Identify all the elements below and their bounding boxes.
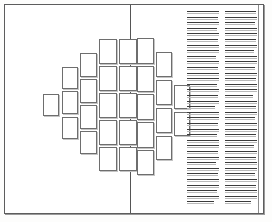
text-rule-line bbox=[225, 39, 256, 40]
text-rule-line bbox=[225, 22, 255, 23]
right-inner-rule bbox=[258, 5, 259, 213]
text-rule-line bbox=[225, 134, 256, 135]
text-rule-line bbox=[187, 78, 219, 79]
photo-placeholder-tile[interactable] bbox=[137, 122, 154, 148]
text-rule-line bbox=[225, 185, 256, 186]
photo-placeholder-tile[interactable] bbox=[80, 79, 97, 103]
text-rule-line bbox=[225, 89, 257, 90]
text-rule-line bbox=[187, 28, 217, 29]
text-rule-line bbox=[225, 11, 256, 12]
photo-placeholder-tile[interactable] bbox=[137, 94, 154, 120]
photo-placeholder-tile[interactable] bbox=[156, 108, 172, 133]
text-rule-line bbox=[187, 168, 219, 169]
text-rule-line bbox=[187, 157, 219, 158]
text-rule-line bbox=[187, 123, 218, 124]
text-rule-line bbox=[187, 11, 219, 12]
photo-placeholder-tile[interactable] bbox=[137, 38, 154, 64]
text-rule-line bbox=[187, 67, 218, 68]
photo-placeholder-tile[interactable] bbox=[119, 120, 137, 145]
text-rule-line bbox=[187, 39, 218, 40]
text-rule-line bbox=[225, 73, 257, 74]
text-rule-line bbox=[225, 162, 257, 163]
text-rule-line bbox=[225, 129, 257, 130]
text-rule-line bbox=[225, 179, 257, 180]
text-rule-line bbox=[187, 50, 219, 51]
text-rule-line bbox=[187, 145, 219, 146]
text-rule-line bbox=[187, 185, 219, 186]
text-rule-line bbox=[225, 145, 254, 146]
text-rule-line bbox=[225, 157, 256, 158]
text-rule-line bbox=[225, 117, 255, 118]
text-rule-line bbox=[225, 173, 255, 174]
text-rule-line bbox=[187, 190, 217, 191]
photo-placeholder-tile[interactable] bbox=[99, 93, 117, 118]
text-rule-line bbox=[225, 33, 257, 34]
photo-placeholder-tile[interactable] bbox=[119, 39, 137, 64]
text-rule-line bbox=[225, 140, 257, 141]
text-rule-line bbox=[187, 95, 218, 96]
text-rule-line bbox=[225, 196, 257, 197]
photo-placeholder-tile[interactable] bbox=[80, 105, 97, 129]
text-rule-line bbox=[187, 179, 219, 180]
page-canvas bbox=[0, 0, 272, 222]
text-rule-line bbox=[225, 78, 256, 79]
text-rule-line bbox=[225, 61, 257, 62]
text-rule-line bbox=[187, 162, 216, 163]
photo-placeholder-tile[interactable] bbox=[80, 53, 97, 77]
text-rule-line bbox=[225, 28, 257, 29]
text-rule-line bbox=[225, 67, 255, 68]
photo-placeholder-tile[interactable] bbox=[62, 67, 78, 89]
photo-placeholder-tile[interactable] bbox=[99, 66, 117, 91]
text-rule-line bbox=[225, 123, 257, 124]
text-rule-line bbox=[225, 190, 257, 191]
text-rule-line bbox=[225, 95, 253, 96]
photo-placeholder-tile[interactable] bbox=[119, 147, 137, 171]
photo-placeholder-tile[interactable] bbox=[62, 117, 78, 139]
text-rule-line bbox=[187, 173, 218, 174]
text-rule-line bbox=[225, 50, 254, 51]
text-rule-line bbox=[187, 196, 219, 197]
text-rule-line bbox=[225, 168, 257, 169]
text-rule-line bbox=[187, 61, 219, 62]
text-rule-line bbox=[187, 33, 219, 34]
text-rule-line bbox=[225, 17, 257, 18]
photo-placeholder-tile[interactable] bbox=[43, 94, 59, 116]
text-rule-line bbox=[225, 45, 257, 46]
text-rule-line bbox=[187, 73, 219, 74]
text-rule-line bbox=[187, 134, 217, 135]
text-rule-line bbox=[187, 45, 219, 46]
text-rule-line bbox=[187, 101, 219, 102]
photo-placeholder-tile[interactable] bbox=[80, 131, 97, 154]
text-rule-line bbox=[187, 112, 219, 113]
text-rule-line bbox=[187, 56, 216, 57]
photo-placeholder-tile[interactable] bbox=[137, 66, 154, 92]
photo-placeholder-tile[interactable] bbox=[99, 39, 117, 64]
text-rule-line bbox=[225, 112, 257, 113]
text-rule-line bbox=[187, 140, 219, 141]
photo-placeholder-tile[interactable] bbox=[119, 93, 137, 118]
text-rule-line bbox=[187, 201, 214, 202]
text-rule-line bbox=[225, 151, 257, 152]
text-rule-line bbox=[187, 17, 218, 18]
text-rule-line bbox=[225, 101, 257, 102]
text-rule-line bbox=[187, 129, 219, 130]
text-rule-line bbox=[187, 89, 219, 90]
text-rule-line bbox=[187, 84, 217, 85]
photo-placeholder-tile[interactable] bbox=[174, 112, 190, 136]
photo-placeholder-tile[interactable] bbox=[156, 136, 172, 160]
text-rule-line bbox=[225, 106, 256, 107]
text-rule-line bbox=[225, 84, 257, 85]
text-rule-line bbox=[187, 151, 218, 152]
text-rule-line bbox=[225, 201, 251, 202]
text-rule-line bbox=[187, 22, 219, 23]
text-rule-line bbox=[225, 56, 257, 57]
text-rule-line bbox=[187, 106, 215, 107]
photo-placeholder-tile[interactable] bbox=[156, 80, 172, 105]
photo-placeholder-tile[interactable] bbox=[137, 150, 154, 175]
photo-placeholder-tile[interactable] bbox=[119, 66, 137, 91]
photo-placeholder-tile[interactable] bbox=[62, 91, 78, 114]
photo-placeholder-tile[interactable] bbox=[99, 147, 117, 171]
photo-placeholder-tile[interactable] bbox=[99, 120, 117, 145]
photo-placeholder-tile[interactable] bbox=[156, 52, 172, 77]
text-rule-line bbox=[187, 117, 219, 118]
